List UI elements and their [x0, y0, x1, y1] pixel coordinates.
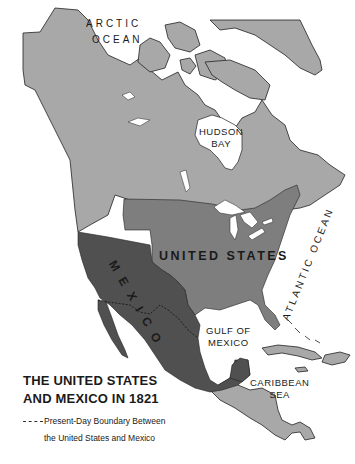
map-title-line1: THE UNITED STATES	[23, 372, 159, 390]
arctic-ocean-label: ARCTIC	[86, 18, 141, 29]
bahamas	[288, 320, 320, 343]
map-legend: Present-Day Boundary Between the United …	[23, 413, 165, 447]
jamaica	[295, 367, 308, 372]
arctic-island	[180, 58, 196, 74]
hispaniola	[322, 352, 350, 365]
gulf-of-mexico-label: GULF OF MEXICO	[206, 325, 251, 349]
hudson-bay-label-line1: HUDSON	[199, 126, 243, 138]
gulf-label-line2: MEXICO	[206, 337, 251, 349]
map-title-line2: AND MEXICO IN 1821	[23, 390, 159, 408]
arctic-island	[165, 22, 200, 52]
yucatan-peninsula	[230, 358, 250, 382]
hudson-bay-label-line2: BAY	[199, 138, 243, 150]
gulf-label-line1: GULF OF	[206, 325, 251, 337]
caribbean-label-line2: SEA	[250, 389, 309, 401]
legend-row: Present-Day Boundary Between	[23, 413, 165, 430]
legend-text-line1: Present-Day Boundary Between	[44, 416, 165, 426]
cuba	[262, 345, 322, 360]
hudson-bay-label: HUDSON BAY	[199, 126, 243, 150]
united-states-label: UNITED STATES	[159, 249, 289, 263]
caribbean-label-line1: CARIBBEAN	[250, 377, 309, 389]
legend-text-line2: the United States and Mexico	[23, 430, 165, 447]
arctic-ocean-label: OCEAN	[92, 34, 143, 45]
map-title: THE UNITED STATES AND MEXICO IN 1821	[23, 372, 159, 408]
dashed-boundary-line-icon	[23, 421, 43, 422]
caribbean-sea-label: CARIBBEAN SEA	[250, 377, 309, 401]
